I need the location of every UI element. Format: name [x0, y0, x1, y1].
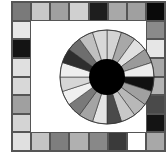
- wheel-hub: [89, 59, 125, 95]
- board-tile-bottom-5[interactable]: [89, 132, 108, 151]
- board-tile-bottom-7[interactable]: [127, 132, 146, 151]
- board-tile-left-4[interactable]: [12, 77, 31, 96]
- board-tile-top-1[interactable]: [12, 2, 31, 21]
- board-tile-left-5[interactable]: [12, 95, 31, 114]
- game-board: [11, 1, 166, 152]
- board-tile-bottom-3[interactable]: [50, 132, 69, 151]
- board-tile-left-1[interactable]: [12, 21, 31, 40]
- board-tile-bottom-6[interactable]: [108, 132, 127, 151]
- board-tile-top-6[interactable]: [108, 2, 127, 21]
- board-tile-top-2[interactable]: [31, 2, 50, 21]
- spinner-wheel[interactable]: [59, 29, 155, 125]
- board-tile-left-6[interactable]: [12, 114, 31, 133]
- board-tile-top-3[interactable]: [50, 2, 69, 21]
- board-tile-bottom-8[interactable]: [146, 132, 165, 151]
- board-center: [31, 21, 146, 133]
- board-tile-top-8[interactable]: [146, 2, 165, 21]
- board-tile-top-7[interactable]: [127, 2, 146, 21]
- board-tile-left-3[interactable]: [12, 58, 31, 77]
- board-tile-left-2[interactable]: [12, 39, 31, 58]
- board-tile-bottom-1[interactable]: [12, 132, 31, 151]
- board-tile-bottom-4[interactable]: [69, 132, 88, 151]
- board-tile-bottom-2[interactable]: [31, 132, 50, 151]
- board-tile-top-4[interactable]: [69, 2, 88, 21]
- board-tile-top-5[interactable]: [89, 2, 108, 21]
